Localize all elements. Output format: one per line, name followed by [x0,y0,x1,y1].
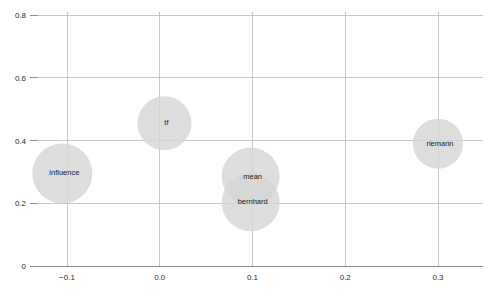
bubble-label-influence: influence [49,168,79,177]
bubble-label-mean: mean [243,172,262,181]
y-tick-label: 0.8 [15,11,27,20]
y-tick-label: 0.4 [15,137,27,146]
x-tick-label: 0.2 [340,273,352,282]
data-bubbles: influencetfmeanbernhardriemann [32,96,463,231]
bubble-chart: influencetfmeanbernhardriemann 00.20.40.… [0,0,488,300]
bubble-label-riemann: riemann [426,139,453,148]
x-tick-label: 0.1 [247,273,259,282]
caption-text: —— ···················· ······ ··· [148,292,235,294]
x-tick-label: 0.3 [432,273,444,282]
tick-marks [30,15,38,266]
y-tick-label: 0.6 [15,74,27,83]
plot-area: influencetfmeanbernhardriemann 00.20.40.… [0,0,488,300]
caption-strip: —— ···················· ······ ··· [0,292,488,300]
y-tick-label: 0 [22,262,27,271]
x-tick-label: −0.1 [59,273,75,282]
x-axis-tick-labels: −0.10.00.10.20.3 [59,273,444,282]
bubble-label-bernhard: bernhard [238,197,268,206]
x-tick-label: 0.0 [154,273,166,282]
y-tick-label: 0.2 [15,199,27,208]
y-axis-tick-labels: 00.20.40.60.8 [15,11,27,271]
